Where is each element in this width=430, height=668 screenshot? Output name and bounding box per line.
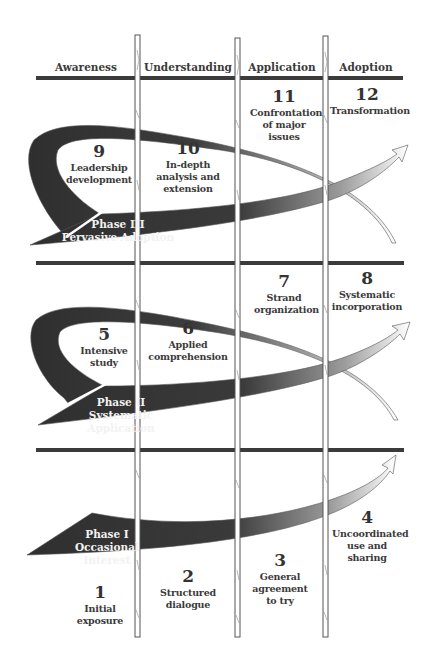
stage-5: 5 Intensive study xyxy=(74,324,134,369)
stage-label: Strand organization xyxy=(244,292,324,316)
phase-subtitle: Occasional Interest xyxy=(52,541,162,567)
phase-subtitle: Systematic Application xyxy=(60,409,182,435)
top-bar xyxy=(36,76,403,80)
stage-number: 7 xyxy=(244,271,324,291)
lower-bar xyxy=(36,448,404,452)
phase-1-label: Phase I Occasional Interest xyxy=(52,528,162,567)
phase-2-label: Phase II Systematic Application xyxy=(60,396,182,435)
stage-7: 7 Strand organization xyxy=(244,271,324,316)
stage-label: Transformation xyxy=(330,105,404,117)
stage-11: 11 Confrontation of major issues xyxy=(244,86,324,143)
stage-label: Intensive study xyxy=(74,345,134,369)
column-header-understanding: Understanding xyxy=(142,61,234,73)
stage-label: Uncoordinated use and sharing xyxy=(330,528,404,564)
stage-6: 6 Applied comprehension xyxy=(146,318,230,363)
stage-number: 1 xyxy=(72,582,128,602)
stage-12: 12 Transformation xyxy=(330,84,404,117)
stage-number: 9 xyxy=(66,141,132,161)
stage-number: 11 xyxy=(244,86,324,106)
phase-title: Phase I xyxy=(52,528,162,541)
stage-2: 2 Structured dialogue xyxy=(150,566,226,611)
stage-number: 6 xyxy=(146,318,230,338)
stage-label: Leadership development xyxy=(66,162,132,186)
stage-label: In-depth analysis and extension xyxy=(148,159,228,195)
stage-number: 8 xyxy=(330,268,404,288)
stage-label: Initial exposure xyxy=(72,603,128,627)
stage-number: 4 xyxy=(330,507,404,527)
stage-9: 9 Leadership development xyxy=(66,141,132,186)
phase-3-label: Phase III Pervasive Adoption xyxy=(58,218,178,244)
phase-title: Phase III xyxy=(58,218,178,231)
stage-4: 4 Uncoordinated use and sharing xyxy=(330,507,404,564)
stage-number: 12 xyxy=(330,84,404,104)
middle-bar xyxy=(36,261,404,265)
column-header-adoption: Adoption xyxy=(330,61,402,73)
stage-1: 1 Initial exposure xyxy=(72,582,128,627)
stage-label: Confrontation of major issues xyxy=(244,107,324,143)
stage-number: 2 xyxy=(150,566,226,586)
stage-label: Applied comprehension xyxy=(146,339,230,363)
stage-number: 5 xyxy=(74,324,134,344)
stage-label: Systematic incorporation xyxy=(330,289,404,313)
stage-3: 3 General agreement to try xyxy=(248,550,312,607)
phase-title: Phase II xyxy=(60,396,182,409)
stage-8: 8 Systematic incorporation xyxy=(330,268,404,313)
column-header-awareness: Awareness xyxy=(40,61,132,73)
stage-10: 10 In-depth analysis and extension xyxy=(148,138,228,195)
stage-number: 10 xyxy=(148,138,228,158)
phase-subtitle: Pervasive Adoption xyxy=(58,231,178,244)
post-2 xyxy=(235,38,240,637)
stage-label: General agreement to try xyxy=(248,571,312,607)
column-header-application: Application xyxy=(242,61,322,73)
stage-label: Structured dialogue xyxy=(150,587,226,611)
stage-number: 3 xyxy=(248,550,312,570)
